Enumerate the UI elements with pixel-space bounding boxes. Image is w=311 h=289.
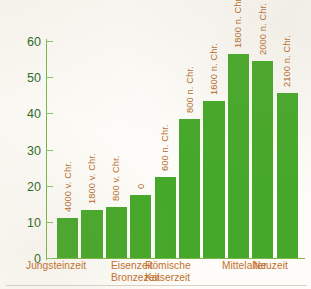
bar-slot: 0 xyxy=(130,41,151,258)
bar-slot: 2000 n. Chr. xyxy=(252,41,273,258)
category-label: Jungsteinzeit xyxy=(26,260,86,271)
footer-rule xyxy=(6,285,307,286)
bar-value-label: 600 n. Chr. xyxy=(160,125,170,172)
bar-slot: 800 n. Chr. xyxy=(179,41,200,258)
bar-value-label: 1800 n. Chr. xyxy=(233,0,243,48)
bar-chart: 0102030405060 4000 v. Chr.1800 v. Chr.80… xyxy=(0,0,311,289)
bar xyxy=(203,101,224,258)
category-label: Römische xyxy=(145,260,191,271)
bar xyxy=(228,54,249,258)
bar-value-label: 1600 n. Chr. xyxy=(208,44,218,96)
bar-value-label: 800 n. Chr. xyxy=(184,67,194,114)
bar xyxy=(81,210,102,258)
bar-slot: 800 v. Chr. xyxy=(106,41,127,258)
bar-value-label: 1800 v. Chr. xyxy=(86,154,96,205)
bar-value-label: 4000 v. Chr. xyxy=(62,161,72,212)
y-axis-tick-label: 50 xyxy=(0,68,41,86)
bar-slot: 4000 v. Chr. xyxy=(57,41,78,258)
bar xyxy=(57,218,78,259)
bar-slot: 2100 n. Chr. xyxy=(277,41,298,258)
bar xyxy=(106,207,127,258)
bar-value-label: 2100 n. Chr. xyxy=(282,36,292,88)
y-axis-tick-label: 60 xyxy=(0,32,41,50)
bar-slot: 1800 v. Chr. xyxy=(81,41,102,258)
bar-value-label: 800 v. Chr. xyxy=(111,155,121,200)
bar-slot: 1800 n. Chr. xyxy=(228,41,249,258)
category-label: Neuzeit xyxy=(253,260,288,271)
bar-value-label: 0 xyxy=(135,184,145,189)
bar-series: 4000 v. Chr.1800 v. Chr.800 v. Chr.0600 … xyxy=(46,41,305,258)
bar xyxy=(252,61,273,258)
bar xyxy=(130,195,151,258)
bar xyxy=(179,119,200,258)
y-axis-tick-label: 20 xyxy=(0,177,41,195)
bar-slot: 600 n. Chr. xyxy=(155,41,176,258)
bar xyxy=(155,177,176,258)
bar-slot: 1600 n. Chr. xyxy=(203,41,224,258)
y-axis-tick-label: 10 xyxy=(0,213,41,231)
bar-value-label: 2000 n. Chr. xyxy=(257,3,267,55)
category-label-second-line: Kaiserzeit xyxy=(145,272,190,283)
y-axis-tick-label: 40 xyxy=(0,104,41,122)
bar xyxy=(277,93,298,258)
y-axis-tick-label: 30 xyxy=(0,141,41,159)
